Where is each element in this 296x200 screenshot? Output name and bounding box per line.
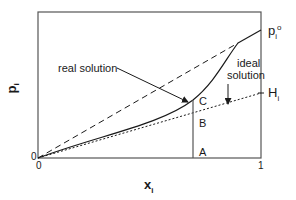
raoult-dashed-line [38, 43, 238, 158]
pure-pressure-label: pio [268, 24, 281, 41]
x-axis-label-sub: i [151, 186, 153, 195]
x-tick-0: 0 [36, 161, 42, 171]
x-axis-label: xi [144, 178, 153, 195]
henry-label: Hi [268, 86, 279, 103]
pure-component-segment [238, 30, 261, 43]
diagram-canvas [0, 0, 296, 200]
y-axis-label: pi [5, 83, 22, 93]
henry-sub: i [277, 94, 279, 103]
real-solution-arrow [117, 68, 188, 102]
pure-pressure-sup: o [277, 23, 281, 32]
y-axis-label-base: p [4, 85, 19, 93]
y-axis-label-sub: i [12, 83, 21, 85]
x-tick-1: 1 [258, 161, 264, 171]
ideal-solution-label-1: ideal [237, 58, 260, 69]
point-a-label: A [199, 147, 206, 158]
henry-base: H [268, 85, 277, 100]
real-solution-label: real solution [58, 63, 117, 74]
y-tick-0: 0 [31, 152, 37, 162]
point-b-label: B [199, 118, 206, 129]
point-c-label: C [199, 96, 207, 107]
pure-pressure-sub: i [275, 32, 277, 41]
ideal-solution-label-2: solution [227, 70, 265, 81]
